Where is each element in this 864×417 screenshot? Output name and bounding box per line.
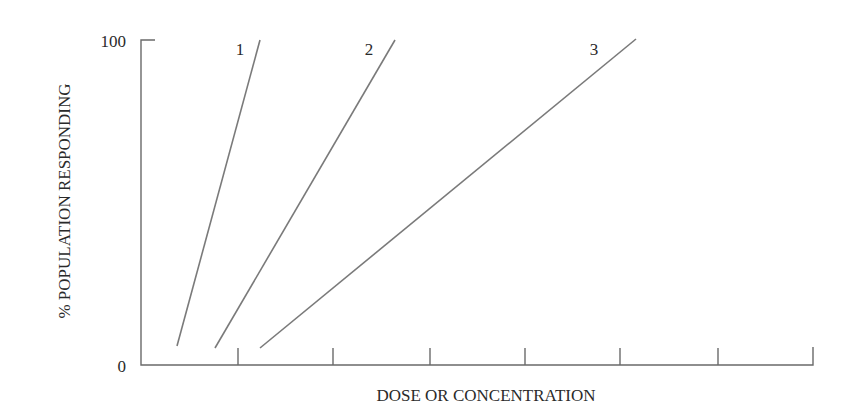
axis-frame: [141, 40, 813, 365]
series-line-2: [215, 40, 395, 348]
y-tick-label-0: 0: [118, 357, 127, 376]
y-tick-label-100: 100: [101, 32, 127, 51]
dose-response-chart: 100 0 % POPULATION RESPONDING DOSE OR CO…: [0, 0, 864, 417]
series-line-3: [260, 39, 636, 348]
series-line-1: [177, 40, 260, 346]
x-axis-title: DOSE OR CONCENTRATION: [376, 386, 595, 405]
y-axis-title: % POPULATION RESPONDING: [55, 83, 74, 318]
series-label-3: 3: [590, 40, 599, 59]
series-label-1: 1: [236, 40, 245, 59]
axes: [141, 40, 813, 365]
series-label-2: 2: [365, 40, 374, 59]
